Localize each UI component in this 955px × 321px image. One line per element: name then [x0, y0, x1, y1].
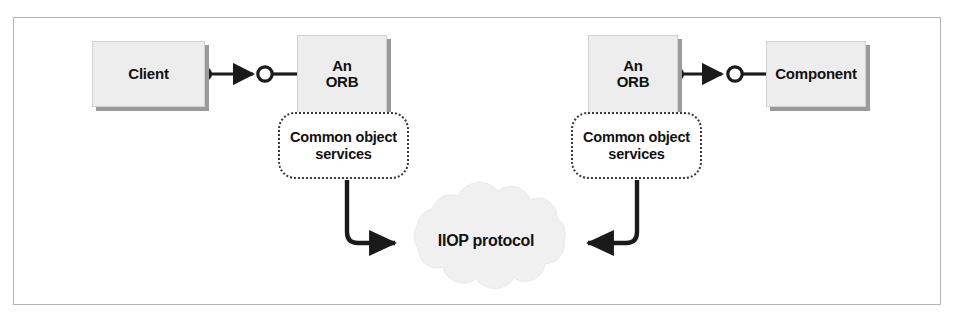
orb-right-box-label: An ORB — [617, 58, 650, 90]
client-box[interactable]: Client — [92, 41, 205, 107]
client-to-orb-connector — [198, 67, 297, 81]
orb-left-box-label: An ORB — [326, 58, 359, 90]
component-box[interactable]: Component — [766, 41, 866, 107]
client-box-label: Client — [128, 66, 168, 82]
orb-right-box[interactable]: An ORB — [588, 35, 678, 113]
component-box-label: Component — [775, 66, 857, 82]
common-object-services-left-label: Common object services — [290, 129, 397, 161]
services-left-to-cloud-arrow — [347, 180, 395, 243]
services-right-to-cloud-arrow — [588, 180, 637, 243]
common-object-services-right-box[interactable]: Common object services — [571, 112, 702, 179]
orb-left-box[interactable]: An ORB — [297, 35, 387, 113]
common-object-services-left-box[interactable]: Common object services — [278, 112, 409, 179]
common-object-services-right-label: Common object services — [583, 129, 690, 161]
iiop-cloud-label: IIOP protocol — [410, 232, 562, 250]
orb-to-component-connector — [670, 67, 766, 81]
figure-canvas: Client An ORB An ORB Component Common ob… — [0, 0, 955, 321]
